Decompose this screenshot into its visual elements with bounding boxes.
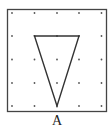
figure-label: A <box>0 113 110 129</box>
dot-grid-figure <box>0 0 110 129</box>
grid-dot <box>34 82 36 84</box>
dot-grid <box>11 12 102 107</box>
grid-dot <box>101 12 103 14</box>
grid-dot <box>56 82 58 84</box>
grid-dot <box>101 35 103 37</box>
grid-dot <box>11 59 13 61</box>
grid-dot <box>34 105 36 107</box>
grid-dot <box>78 105 80 107</box>
grid-dot <box>101 59 103 61</box>
grid-dot <box>11 35 13 37</box>
grid-dot <box>101 105 103 107</box>
grid-dot <box>101 82 103 84</box>
grid-dot <box>56 12 58 14</box>
grid-dot <box>78 82 80 84</box>
grid-dot <box>34 59 36 61</box>
grid-border <box>8 10 107 112</box>
grid-dot <box>78 12 80 14</box>
grid-dot <box>11 12 13 14</box>
grid-dot <box>56 59 58 61</box>
grid-dot <box>78 59 80 61</box>
grid-dot <box>11 82 13 84</box>
grid-dot <box>34 12 36 14</box>
grid-dot <box>11 105 13 107</box>
triangle-shape <box>35 36 80 106</box>
